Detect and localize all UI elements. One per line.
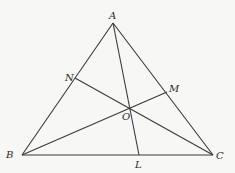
cevian-cn (75, 78, 213, 155)
label-m: M (168, 83, 180, 94)
side-ca (113, 23, 213, 155)
label-a: A (108, 10, 116, 21)
label-l: L (134, 159, 142, 170)
label-o: O (122, 111, 130, 122)
cevian-al (113, 23, 139, 155)
label-b: B (5, 149, 13, 160)
label-c: C (216, 150, 224, 161)
triangle-diagram: A B C L M N O (0, 0, 235, 173)
label-n: N (64, 72, 75, 83)
